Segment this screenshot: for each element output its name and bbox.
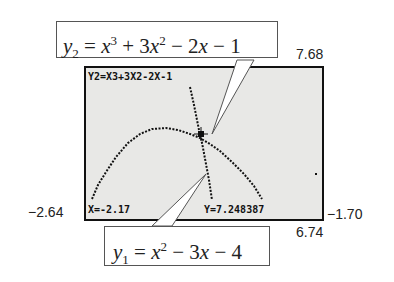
top-callout-pointer bbox=[212, 60, 254, 134]
y1-curve bbox=[92, 128, 262, 199]
y2-equation-callout: y2 = x3 + 3x2 − 2x − 1 bbox=[56, 21, 278, 58]
pixel-dot bbox=[315, 173, 317, 175]
bottom-callout-pointer bbox=[152, 174, 206, 226]
y1-equation-callout: y1 = x2 − 3x − 4 bbox=[104, 226, 270, 266]
